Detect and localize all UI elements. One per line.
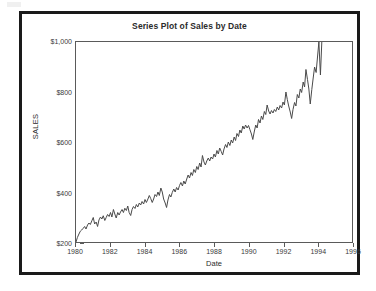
x-tick-label: 1988 — [206, 248, 222, 255]
x-tick-mark — [214, 243, 215, 247]
screenshot-root: Series Plot of Sales by Date SALES $200$… — [0, 0, 376, 291]
x-tick-label: 1984 — [137, 248, 153, 255]
y-tick-label: $600 — [56, 139, 72, 146]
x-tick-label: 1994 — [310, 248, 326, 255]
x-tick-label: 1990 — [241, 248, 257, 255]
x-tick-mark — [249, 243, 250, 247]
y-tick-label: $1,000 — [51, 38, 72, 45]
x-tick-mark — [179, 243, 180, 247]
x-axis-ticks: 198019821984198619881990199219941996 — [75, 243, 353, 259]
chart-title: Series Plot of Sales by Date — [22, 21, 357, 31]
x-tick-mark — [145, 243, 146, 247]
x-tick-mark — [318, 243, 319, 247]
y-tick-label: $400 — [56, 189, 72, 196]
x-tick-mark — [353, 243, 354, 247]
x-tick-label: 1986 — [171, 248, 187, 255]
y-axis-ticks: $200$400$600$800$1,000 — [30, 41, 72, 243]
plot-area — [75, 41, 353, 243]
x-tick-label: 1992 — [276, 248, 292, 255]
y-tick-label: $800 — [56, 88, 72, 95]
x-tick-mark — [284, 243, 285, 247]
x-tick-mark — [110, 243, 111, 247]
series-line-sales — [76, 42, 322, 242]
series-line-chart — [76, 42, 352, 242]
chart-figure: Series Plot of Sales by Date SALES $200$… — [22, 14, 357, 272]
capture-artifact — [7, 2, 21, 7]
x-tick-label: 1996 — [345, 248, 361, 255]
y-tick-label: $200 — [56, 240, 72, 247]
x-tick-label: 1982 — [102, 248, 118, 255]
x-tick-mark — [75, 243, 76, 247]
x-axis-title: Date — [75, 259, 353, 268]
figure-outer-frame: Series Plot of Sales by Date SALES $200$… — [19, 11, 360, 275]
x-tick-label: 1980 — [67, 248, 83, 255]
